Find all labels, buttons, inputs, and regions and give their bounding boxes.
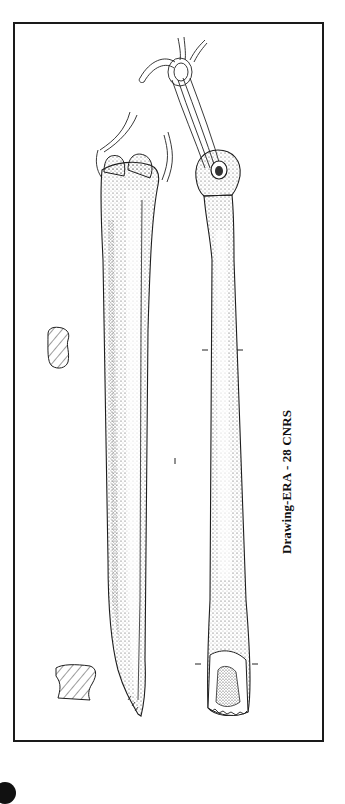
right-bone-tool-icon [196, 150, 250, 715]
corner-mark-icon [0, 782, 16, 804]
figure-caption: Drawing-ERA - 28 CNRS [279, 410, 295, 554]
lower-cross-section-icon [56, 665, 96, 700]
upper-cross-section-icon [48, 327, 69, 368]
left-bone-tool-icon [101, 154, 159, 716]
